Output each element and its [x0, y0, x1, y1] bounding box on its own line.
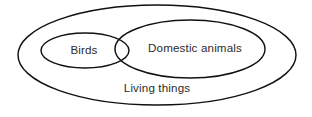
label-living-things: Living things: [124, 81, 190, 94]
venn-diagram-canvas: Birds Domestic animals Living things: [0, 0, 312, 117]
label-birds: Birds: [70, 43, 97, 56]
label-domestic-animals: Domestic animals: [148, 41, 242, 54]
venn-diagram: Birds Domestic animals Living things: [0, 0, 312, 117]
